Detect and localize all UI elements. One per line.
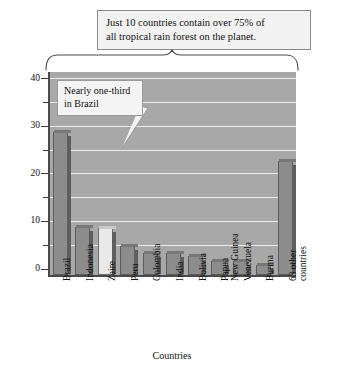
bar-brazil <box>53 132 68 275</box>
brazil-annotation-line-1: Nearly one-third <box>64 85 137 98</box>
x-tick-label-venezuela: Venezuela <box>244 242 254 281</box>
chart-title-line-2: all tropical rain forest on the planet. <box>106 30 302 44</box>
x-tick-label-line: Burma <box>266 255 276 281</box>
x-tick-label-burma: Burma <box>266 255 276 281</box>
x-tick-label-line: New Guinea <box>231 233 241 281</box>
y-tick-label-20: 20 <box>14 168 40 178</box>
x-tick-label-line: Colombia <box>153 244 163 281</box>
rain-forest-bar-chart-figure: Just 10 countries contain over 75% of al… <box>0 0 344 370</box>
x-tick-label-line: countries <box>298 246 308 281</box>
y-tick-label-10: 10 <box>14 215 40 225</box>
bar-top-face <box>279 159 296 162</box>
y-tick-label-0: 0 <box>14 263 40 273</box>
x-tick-label-line: Indonesia <box>86 244 96 281</box>
brazil-annotation-callout: Nearly one-third in Brazil <box>57 80 143 116</box>
x-axis-title: Countries <box>0 350 344 361</box>
x-tick-label-line: Bolivia <box>199 253 209 281</box>
y-tick-label-40: 40 <box>14 73 40 83</box>
x-tick-label-india: India <box>176 261 186 281</box>
x-tick-label-indonesia: Indonesia <box>86 244 96 281</box>
x-tick-label-brazil: Brazil <box>63 258 73 281</box>
x-tick-label-line: Peru <box>131 264 141 281</box>
x-tick-label-line: Venezuela <box>244 242 254 281</box>
x-tick-label-line: 63 other <box>289 246 299 281</box>
x-tick-label-line: India <box>176 261 186 281</box>
bar-top-face <box>121 244 138 247</box>
x-tick-label-peru: Peru <box>131 264 141 281</box>
x-tick-label-line: Zaire <box>108 261 118 281</box>
chart-title-line-1: Just 10 countries contain over 75% of <box>106 16 302 30</box>
bar-top-face <box>76 225 93 228</box>
x-tick-label-zaire: Zaire <box>108 261 118 281</box>
x-tick-label-papua-new-guinea: PapuaNew Guinea <box>221 233 240 281</box>
x-tick-label-bolivia: Bolivia <box>199 253 209 281</box>
brazil-annotation-line-2: in Brazil <box>64 98 137 111</box>
x-tick-label-line: Brazil <box>63 258 73 281</box>
y-tick-label-30: 30 <box>14 120 40 130</box>
grouping-brace-icon <box>44 49 300 71</box>
bar-top-face <box>54 130 71 133</box>
x-tick-label-colombia: Colombia <box>153 244 163 281</box>
chart-title-callout: Just 10 countries contain over 75% of al… <box>97 10 311 50</box>
bar-top-face <box>167 251 184 254</box>
bar-side-face <box>67 136 71 274</box>
x-tick-label-63-other-countries: 63 othercountries <box>289 246 308 281</box>
bar-top-face <box>99 226 116 229</box>
